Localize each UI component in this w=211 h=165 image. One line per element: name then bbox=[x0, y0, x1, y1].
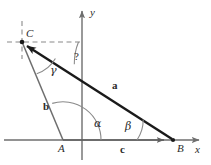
point-c-dot bbox=[20, 40, 25, 45]
segment-label-b: b bbox=[43, 101, 49, 112]
figure-canvas bbox=[0, 0, 211, 165]
point-label-a: A bbox=[58, 143, 65, 154]
axis-label-y: y bbox=[90, 7, 95, 18]
angle-beta-arc bbox=[137, 120, 143, 140]
vector-label-a: a bbox=[112, 80, 118, 91]
vector-label-c: c bbox=[120, 144, 125, 155]
angle-label-gamma: γ bbox=[50, 65, 57, 76]
point-b-dot bbox=[171, 138, 175, 142]
angle-label-unknown: ? bbox=[74, 51, 79, 62]
segment-b-line bbox=[23, 43, 64, 140]
geometry-figure: C A B x y a c b α β γ ? bbox=[0, 0, 211, 165]
axis-label-x: x bbox=[195, 144, 200, 155]
point-label-c: C bbox=[26, 28, 33, 39]
point-label-b: B bbox=[177, 143, 184, 154]
angle-label-alpha: α bbox=[94, 118, 101, 129]
angle-label-beta: β bbox=[125, 121, 131, 132]
